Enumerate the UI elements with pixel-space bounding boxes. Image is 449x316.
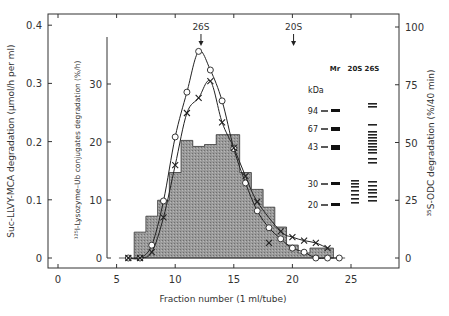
- left-tick-label: 0.1: [26, 195, 42, 206]
- gel-header-26s: 26S: [365, 65, 380, 73]
- gel-mr-band: [331, 203, 340, 206]
- gel-20s-band: [351, 183, 359, 185]
- down-arrow-icon: [198, 41, 203, 46]
- x-tick-label: 20: [286, 274, 299, 285]
- gel-26s-band: [368, 200, 377, 202]
- right-tick-label: 50: [405, 138, 418, 149]
- gel-mr-band: [331, 109, 340, 112]
- left-tick-label: 0.4: [26, 20, 42, 31]
- gel-20s-band: [351, 186, 359, 188]
- gel-26s-band: [368, 106, 377, 108]
- circle-marker: [325, 255, 331, 261]
- gel-20s-band: [351, 180, 359, 182]
- circle-marker: [196, 48, 202, 54]
- gel-26s-band: [368, 146, 377, 148]
- gel-26s-band: [368, 158, 377, 160]
- cross-marker: [289, 234, 295, 240]
- gel-20s-band: [351, 198, 359, 200]
- circle-marker: [278, 236, 284, 242]
- cross-marker: [184, 110, 190, 116]
- right-axis-title: ³⁵S-ODC degradation (%/40 min): [426, 70, 436, 217]
- annotation-label: 26S: [192, 22, 209, 32]
- gel-marker-label: 20: [308, 201, 318, 210]
- gel-mr-band: [331, 145, 340, 150]
- circle-marker: [207, 67, 213, 73]
- right-tick-label: 100: [405, 22, 424, 33]
- gel-marker-label: 67: [308, 125, 318, 134]
- gel-26s-band: [368, 131, 377, 133]
- x-tick-label: 25: [345, 274, 358, 285]
- circle-marker: [254, 208, 260, 214]
- circle-marker: [336, 255, 342, 261]
- gel-mr-band: [331, 127, 340, 131]
- gel-26s-band: [368, 124, 377, 126]
- left-tick-label: 0.3: [26, 78, 42, 89]
- gel-26s-band: [368, 181, 377, 183]
- circle-marker: [313, 255, 319, 261]
- gel-marker-label: 94: [308, 107, 318, 116]
- circle-marker: [219, 98, 225, 104]
- gel-26s-band: [368, 185, 377, 187]
- gel-26s-band: [368, 103, 377, 105]
- x-tick-label: 15: [227, 274, 240, 285]
- circle-marker: [160, 198, 166, 204]
- cross-marker: [196, 95, 202, 101]
- gel-20s-band: [351, 190, 359, 192]
- gel-26s-band: [368, 189, 377, 191]
- circle-marker: [301, 249, 307, 255]
- x-axis-title: Fraction number (1 ml/tube): [159, 294, 286, 304]
- inner-tick-label: 20: [89, 137, 102, 148]
- chart-figure: 0510152025Fraction number (1 ml/tube)00.…: [0, 0, 449, 316]
- inner-tick-label: 0: [96, 253, 102, 264]
- gel-header-20s: 20S: [348, 65, 363, 73]
- cross-marker: [219, 119, 225, 125]
- gel-26s-band: [368, 162, 377, 164]
- gel-marker-label: 43: [308, 143, 318, 152]
- gel-26s-band: [368, 134, 377, 136]
- inner-tick-label: 10: [89, 195, 102, 206]
- circle-marker: [184, 89, 190, 95]
- left-tick-label: 0.2: [26, 137, 42, 148]
- gel-unit: kDa: [308, 86, 324, 95]
- circle-marker: [289, 245, 295, 251]
- x-tick-label: 10: [169, 274, 182, 285]
- inner-axis-title: ¹²⁵I-Lysozyme–Ub conjugates degradation …: [73, 61, 82, 240]
- left-tick-label: 0: [36, 253, 42, 264]
- down-arrow-icon: [291, 41, 296, 46]
- gel-20s-band: [351, 202, 359, 204]
- annotation-label: 20S: [285, 22, 302, 32]
- gel-26s-band: [368, 140, 377, 142]
- gel-26s-band: [368, 152, 377, 154]
- circle-marker: [266, 225, 272, 231]
- gel-26s-band: [368, 192, 377, 194]
- right-tick-label: 0: [405, 253, 411, 264]
- cross-marker: [313, 240, 319, 246]
- gel-26s-band: [368, 196, 377, 198]
- gel-mr-band: [331, 182, 340, 185]
- gel-marker-label: 30: [308, 180, 318, 189]
- right-tick-label: 25: [405, 195, 418, 206]
- circle-marker: [172, 134, 178, 140]
- gel-26s-band: [368, 149, 377, 151]
- gel-header-mr: Mr: [330, 65, 341, 73]
- x-tick-label: 5: [113, 274, 119, 285]
- right-tick-label: 75: [405, 80, 418, 91]
- gel-26s-band: [368, 137, 377, 139]
- left-axis-title: Suc-LLVY-MCA degradation (µmol/h per ml): [6, 44, 16, 237]
- gel-20s-band: [351, 194, 359, 196]
- inner-tick-label: 30: [89, 79, 102, 90]
- x-tick-label: 0: [55, 274, 61, 285]
- chart-svg: 0510152025Fraction number (1 ml/tube)00.…: [0, 0, 449, 316]
- gel-26s-band: [368, 143, 377, 145]
